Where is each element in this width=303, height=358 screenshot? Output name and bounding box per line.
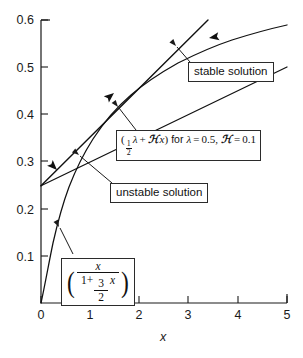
for-text: for	[171, 133, 183, 145]
three-halves-fraction: 32	[94, 278, 108, 303]
lambda-value: 0.5	[201, 133, 215, 145]
comma-separator: ,	[215, 133, 218, 145]
big-fraction-group: ( x 1+32x )	[66, 260, 130, 303]
close-paren: )	[165, 133, 169, 145]
plot-canvas	[0, 0, 303, 358]
y-tick-label-0: 0.1	[2, 250, 34, 264]
y-tick-label-5: 0.6	[2, 13, 34, 27]
x-tick-label-4: 4	[228, 308, 248, 322]
equals-1: =	[193, 133, 199, 145]
x-tick-label-5: 5	[277, 308, 297, 322]
one-half-fraction: 12	[126, 140, 132, 157]
line-formula-callout: (12λ+ℋx)forλ=0.5,ℋ=0.1	[116, 130, 261, 161]
big-fraction-numerator: x	[92, 260, 105, 272]
series-straight-line	[41, 67, 287, 186]
unstable-solution-text: unstable solution	[116, 186, 202, 198]
x-tick-label-3: 3	[178, 308, 198, 322]
lambda-symbol: λ	[133, 133, 138, 145]
fraction-denominator: 2	[126, 148, 132, 157]
y-tick-label-1: 0.2	[2, 203, 34, 217]
unstable-solution-callout: unstable solution	[110, 183, 208, 203]
stable-solution-text: stable solution	[194, 65, 268, 77]
curve-formula-callout: ( x 1+32x )	[61, 258, 135, 306]
plus-operator: +	[139, 133, 145, 145]
x-tick-label-1: 1	[80, 308, 100, 322]
y-tick-label-3: 0.4	[2, 108, 34, 122]
denominator-plus: +	[87, 274, 94, 286]
big-right-paren: )	[121, 270, 129, 293]
fraction-numerator: 1	[126, 140, 132, 148]
script-h-symbol: ℋ	[148, 133, 159, 146]
stable-solution-callout: stable solution	[188, 62, 274, 82]
three-halves-numerator: 3	[94, 278, 108, 290]
x-axis-title: x	[160, 330, 166, 344]
open-paren: (	[121, 133, 125, 145]
three-halves-denominator: 2	[94, 290, 108, 304]
script-h-symbol-2: ℋ	[221, 133, 232, 146]
chart-figure: 0.1 0.2 0.3 0.4 0.5 0.6 0 1 2 3 4 5 x st…	[0, 0, 303, 358]
lambda-symbol-2: λ	[186, 133, 191, 145]
x-tick-label-0: 0	[31, 308, 51, 322]
y-tick-label-4: 0.5	[2, 61, 34, 75]
y-tick-label-2: 0.3	[2, 155, 34, 169]
x-over-one-plus-three-halves-x: x 1+32x	[77, 260, 119, 303]
y-axis-ticks	[41, 20, 48, 256]
big-fraction-denominator: 1+32x	[77, 272, 119, 303]
big-left-paren: (	[67, 270, 75, 293]
equals-2: =	[234, 133, 240, 145]
h-value: 0.1	[242, 133, 256, 145]
denominator-x: x	[110, 274, 115, 286]
x-tick-label-2: 2	[129, 308, 149, 322]
